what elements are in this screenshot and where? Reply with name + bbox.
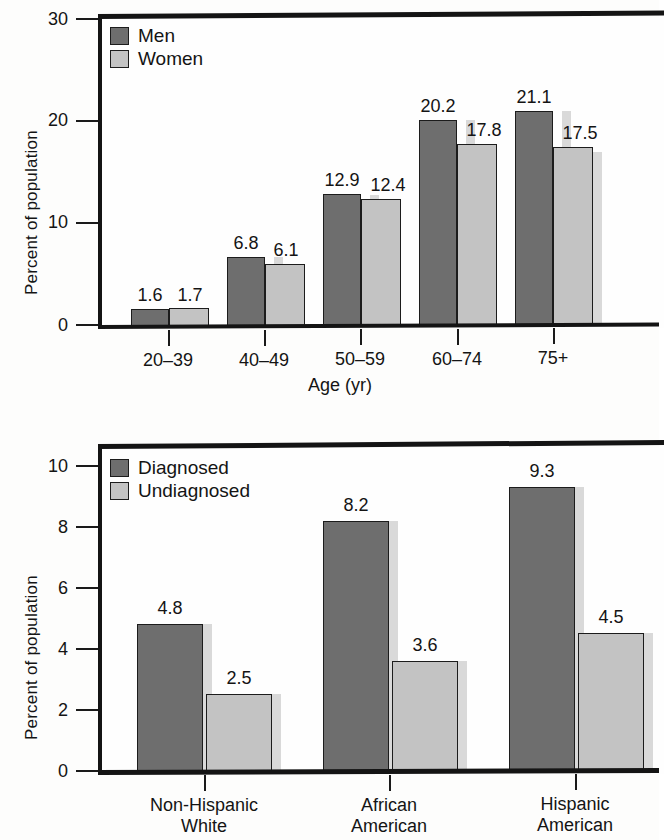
legend-swatch-women [110,50,129,68]
legend-swatch-undiagnosed [110,482,129,500]
y-tick-label-20: 20 [16,111,68,129]
y-tick-mark-0 [76,324,98,326]
legend-swatch-men [110,27,129,45]
bar-diagnosed-african [323,521,389,771]
legend-label-men: Men [138,26,175,45]
x-tick-label-line2: American [314,816,464,837]
x-tick-label-line2: American [500,815,650,836]
bar-value-undiagnosed-african: 3.6 [395,636,455,654]
bar-value-undiagnosed-nhwhite: 2.5 [209,669,269,687]
bar-value-diagnosed-african: 8.2 [326,496,386,514]
legend-swatch-diagnosed [110,459,129,477]
bar-women-60-74 [457,144,497,326]
x-tick-label-hispanic: Hispanic American [500,794,650,835]
y-tick-label-0: 0 [16,316,68,334]
bar-diagnosed-hispanic [509,487,575,771]
bar-value-men-60-74: 20.2 [406,97,470,115]
legend-item-undiagnosed[interactable]: Undiagnosed [110,481,250,500]
x-tick-label-60-74: 60–74 [412,349,502,370]
y-tick-mark-4 [76,648,98,650]
y-tick-mark-2 [76,709,98,711]
bar-value-women-60-74: 17.8 [452,121,516,139]
y-tick-label-10b: 10 [10,457,68,475]
bar-shadow [458,661,467,771]
legend-label-diagnosed: Diagnosed [138,458,229,477]
bar-women-20-39 [169,308,209,326]
bar-undiagnosed-hispanic [578,633,644,771]
x-tick-label-40-49: 40–49 [219,350,309,371]
y-tick-mark-20 [76,120,98,122]
bar-undiagnosed-african [392,661,458,771]
x-tick-label-nhwhite: Non-Hispanic White [129,795,279,836]
x-tick-label-75plus: 75+ [508,348,598,369]
bar-shadow [272,694,281,771]
legend-label-undiagnosed: Undiagnosed [138,481,250,500]
y-tick-mark-0b [76,770,98,772]
x-tick-label-50-59: 50–59 [315,349,405,370]
bar-value-men-75plus: 21.1 [502,88,566,106]
bar-women-40-49 [265,264,305,326]
legend-label-women: Women [138,49,203,68]
y-tick-mark-10 [76,222,98,224]
bar-diagnosed-nhwhite [137,624,203,771]
y-tick-mark-30 [76,18,98,20]
legend-bottom-chart: Diagnosed Undiagnosed [110,458,250,504]
bar-undiagnosed-nhwhite [206,694,272,771]
bar-shadow [644,633,653,771]
plot-frame-left-edge-bottom [98,446,102,774]
legend-item-men[interactable]: Men [110,26,203,45]
y-tick-mark-10b [76,465,98,467]
x-tick-mark-nhwhite [204,775,206,791]
y-tick-mark-8 [76,526,98,528]
x-tick-label-african: African American [314,795,464,836]
y-tick-label-0b: 0 [10,762,68,780]
x-tick-mark-20-39 [168,330,170,346]
bar-men-75plus [515,111,553,326]
x-axis-title-top: Age (yr) [280,375,400,396]
bar-men-20-39 [131,309,169,326]
y-tick-label-30: 30 [16,10,68,28]
x-tick-label-line2: White [129,816,279,837]
x-tick-mark-60-74 [457,329,459,345]
bar-value-women-75plus: 17.5 [548,124,612,142]
bar-men-50-59 [323,194,361,326]
bar-value-women-50-59: 12.4 [356,176,420,194]
legend-top-chart: Men Women [110,26,203,72]
bar-value-diagnosed-hispanic: 9.3 [512,462,572,480]
y-tick-label-6: 6 [10,579,68,597]
x-tick-mark-50-59 [360,329,362,345]
bar-shadow [593,152,602,326]
bar-value-diagnosed-nhwhite: 4.8 [140,599,200,617]
plot-frame-left-edge [98,16,102,328]
bar-men-60-74 [419,120,457,326]
y-tick-label-2: 2 [10,701,68,719]
y-tick-mark-6 [76,587,98,589]
bar-value-women-40-49: 6.1 [258,241,314,259]
x-tick-label-line1: African [314,795,464,816]
x-tick-label-20-39: 20–39 [123,350,213,371]
legend-item-women[interactable]: Women [110,49,203,68]
bar-men-40-49 [227,257,265,326]
legend-item-diagnosed[interactable]: Diagnosed [110,458,250,477]
bar-value-undiagnosed-hispanic: 4.5 [581,608,641,626]
x-tick-mark-40-49 [264,330,266,346]
bar-value-women-20-39: 1.7 [162,286,218,304]
bar-women-50-59 [361,199,401,326]
y-tick-label-8: 8 [10,518,68,536]
x-tick-mark-hispanic [575,774,577,790]
x-tick-label-line1: Hispanic [500,794,650,815]
x-tick-label-line1: Non-Hispanic [129,795,279,816]
y-tick-label-10: 10 [16,213,68,231]
y-tick-label-4: 4 [10,640,68,658]
bar-women-75plus [553,147,593,326]
x-tick-mark-african [389,775,391,791]
x-tick-mark-75plus [553,328,555,344]
